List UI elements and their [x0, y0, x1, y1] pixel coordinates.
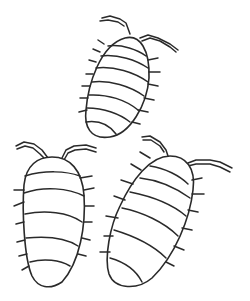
bugs-illustration: [0, 0, 250, 301]
bug-top: [79, 16, 178, 137]
bug-bottom-left: [14, 142, 96, 287]
bug-bottom-right: [100, 136, 232, 287]
